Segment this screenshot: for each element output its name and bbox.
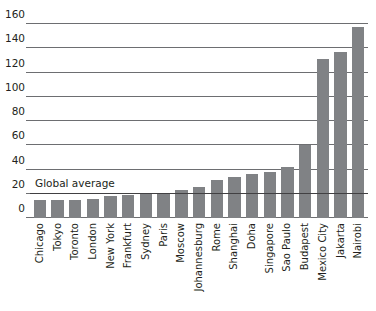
x-axis-label-slot: Shanghai [226,221,244,309]
x-axis-label-slot: Paris [155,221,173,309]
y-axis-tick-label: 100 [5,82,25,93]
x-axis-label-slot: New York [102,221,120,309]
x-axis-label-slot: Budapest [296,221,314,309]
y-axis-tick-label: 20 [12,179,25,190]
x-axis-label-slot: Doha [243,221,261,309]
y-axis-tick-label: 80 [12,106,25,117]
y-axis-tick-label: 120 [5,57,25,68]
x-axis-tick-label: Moscow [176,223,186,263]
plot-area: 020406080100120140160 Global average [30,18,368,218]
x-axis-label-slot: London [84,221,102,309]
y-axis-tick-label: 60 [12,130,25,141]
x-axis-tick-label: Frankfurt [123,223,133,268]
x-axis-tick-label: Rome [212,223,222,252]
x-axis-tick-label: Tokyo [53,223,63,251]
x-axis-label-slot: Moscow [173,221,191,309]
x-axis-tick-label: Doha [247,223,257,249]
global-average-line [30,193,368,194]
x-axis-tick-label: Mexico City [318,223,328,281]
global-average-annotation: Global average [30,18,368,218]
bar-chart: 020406080100120140160 Global average Chi… [0,0,376,311]
x-axis-tick-label: Nairobi [353,223,363,259]
x-axis-label-slot: Sydney [137,221,155,309]
global-average-label: Global average [35,178,115,189]
x-axis-tick-label: Singapore [265,223,275,273]
x-axis-label-slot: Toronto [66,221,84,309]
x-axis-labels: ChicagoTokyoTorontoLondonNew YorkFrankfu… [30,221,368,309]
x-axis-tick-label: Johannesburg [194,223,204,292]
x-axis-tick-label: Toronto [70,223,80,260]
x-axis-label-slot: Tokyo [49,221,67,309]
x-axis-tick-label: New York [106,223,116,269]
y-axis-tick-label: 0 [18,203,25,214]
x-axis-label-slot: Johannesburg [190,221,208,309]
x-axis-label-slot: Singapore [261,221,279,309]
x-axis-label-slot: Sao Paulo [279,221,297,309]
x-axis-tick-label: London [88,223,98,260]
x-axis-tick-label: Sydney [141,223,151,260]
x-axis-label-slot: Rome [208,221,226,309]
x-axis-label-slot: Mexico City [314,221,332,309]
x-axis-label-slot: Jakarta [332,221,350,309]
x-axis-label-slot: Frankfurt [119,221,137,309]
x-axis-label-slot: Chicago [31,221,49,309]
x-axis-tick-label: Paris [159,223,169,247]
y-axis-tick-label: 160 [5,9,25,20]
y-axis-tick-label: 140 [5,33,25,44]
x-axis-label-slot: Nairobi [349,221,367,309]
x-axis-tick-label: Chicago [35,223,45,263]
x-axis-tick-label: Budapest [300,223,310,270]
y-axis-tick-label: 40 [12,154,25,165]
x-axis-tick-label: Jakarta [336,223,346,258]
x-axis-tick-label: Sao Paulo [282,223,292,272]
x-axis-tick-label: Shanghai [229,223,239,270]
